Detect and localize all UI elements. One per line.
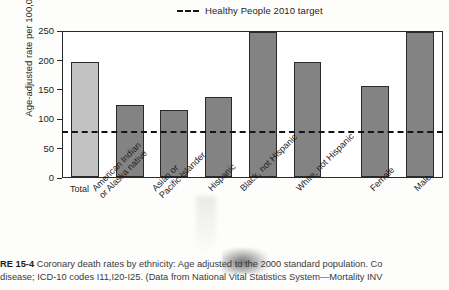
bar-male[interactable] (406, 32, 434, 177)
figure-caption: RE 15-4 Coronary death rates by ethnicit… (0, 258, 449, 290)
caption-line-2: disease; ICD-10 codes I11,I20-I25. (Data… (0, 271, 449, 284)
figure-panel: Healthy People 2010 target Age-adjusted … (0, 0, 449, 258)
bar-white-not-hispanic[interactable] (294, 62, 322, 177)
legend-dashed-line-icon (177, 10, 199, 12)
caption-line-1: RE 15-4 Coronary death rates by ethnicit… (0, 258, 449, 271)
figure-number: RE 15-4 (0, 259, 34, 269)
target-reference-line (62, 131, 443, 133)
y-axis-title: Age-adjusted rate per 100,000 (23, 0, 34, 128)
x-label-total: Total (70, 184, 89, 194)
x-axis-labels: Total American Indian or Alaska native A… (62, 180, 443, 256)
legend-label-target: Healthy People 2010 target (205, 5, 323, 16)
y-axis: Age-adjusted rate per 100,000 0 50 100 1… (0, 31, 62, 178)
bar-total[interactable] (71, 62, 99, 177)
bar-slot-total (63, 32, 107, 177)
legend: Healthy People 2010 target (177, 5, 323, 16)
caption-line-1-text: Coronary death rates by ethnicity: Age a… (34, 259, 382, 269)
bar-slot-female (353, 32, 397, 177)
bar-slot-male (398, 32, 442, 177)
